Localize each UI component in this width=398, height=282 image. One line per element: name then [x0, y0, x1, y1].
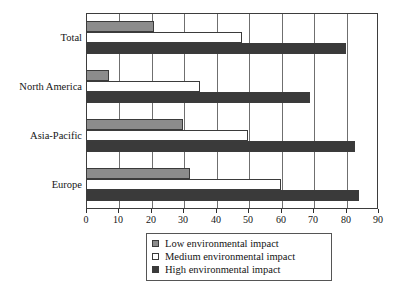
bar-medium	[86, 32, 242, 43]
axis-tick	[346, 209, 347, 213]
axis-tick-label: 80	[333, 214, 359, 226]
axis-tick	[378, 209, 379, 213]
axis-tick	[118, 209, 119, 213]
legend-item-medium[interactable]: Medium environmental impact	[152, 250, 326, 263]
category-axis-labels: TotalNorth AmericaAsia-PacificEurope	[0, 13, 82, 209]
legend-label-medium: Medium environmental impact	[165, 250, 295, 263]
bar-medium	[86, 179, 281, 190]
bar-low	[86, 70, 109, 81]
legend: Low environmental impact Medium environm…	[146, 233, 332, 281]
bar-high	[86, 190, 359, 201]
bar-chart: TotalNorth AmericaAsia-PacificEurope 010…	[0, 0, 398, 282]
value-axis: 0102030405060708090	[86, 209, 378, 229]
category-label: Asia-Pacific	[0, 130, 82, 141]
axis-tick-label: 20	[138, 214, 164, 226]
legend-swatch-medium-icon	[152, 253, 159, 260]
axis-tick	[151, 209, 152, 213]
bar-high	[86, 92, 310, 103]
axis-tick	[313, 209, 314, 213]
axis-tick	[183, 209, 184, 213]
bar-medium	[86, 81, 200, 92]
bars-layer	[86, 13, 378, 209]
axis-tick	[248, 209, 249, 213]
bar-high	[86, 141, 355, 152]
axis-tick-label: 60	[268, 214, 294, 226]
bar-low	[86, 119, 183, 130]
legend-label-high: High environmental impact	[165, 263, 280, 276]
axis-tick-label: 50	[235, 214, 261, 226]
axis-tick	[281, 209, 282, 213]
axis-tick-label: 10	[105, 214, 131, 226]
axis-tick-label: 90	[365, 214, 391, 226]
axis-tick-label: 30	[170, 214, 196, 226]
axis-tick	[86, 209, 87, 213]
category-label: Europe	[0, 179, 82, 190]
legend-swatch-high-icon	[152, 266, 159, 273]
bar-high	[86, 43, 346, 54]
category-label: Total	[0, 32, 82, 43]
category-label: North America	[0, 81, 82, 92]
legend-swatch-low-icon	[152, 240, 159, 247]
axis-tick-label: 40	[203, 214, 229, 226]
axis-tick	[216, 209, 217, 213]
bar-low	[86, 21, 154, 32]
bar-low	[86, 168, 190, 179]
legend-item-high[interactable]: High environmental impact	[152, 263, 326, 276]
bar-medium	[86, 130, 248, 141]
axis-tick-label: 70	[300, 214, 326, 226]
axis-tick-label: 0	[73, 214, 99, 226]
legend-item-low[interactable]: Low environmental impact	[152, 237, 326, 250]
legend-label-low: Low environmental impact	[165, 237, 279, 250]
